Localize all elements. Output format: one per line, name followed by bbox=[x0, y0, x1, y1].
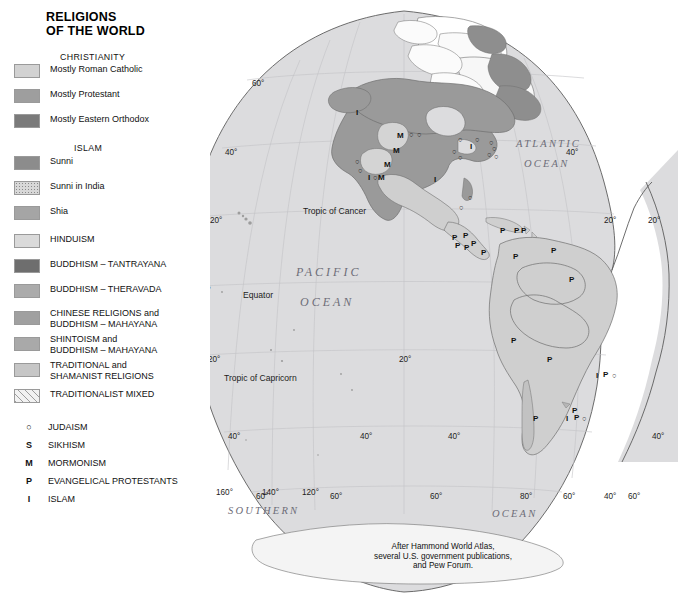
legend-label-catholic: Mostly Roman Catholic bbox=[50, 64, 143, 75]
legend-swatch-theravada bbox=[14, 284, 40, 298]
sikhism-icon: S bbox=[22, 440, 36, 450]
legend-panel: RELIGIONS OF THE WORLD CHRISTIANITY Most… bbox=[0, 0, 210, 594]
legend-swatch-shia bbox=[14, 206, 40, 220]
ocean-lobe-far-east bbox=[618, 150, 678, 462]
legend-label-chinese: CHINESE RELIGIONS and BUDDHISM – MAHAYAN… bbox=[50, 308, 159, 329]
legend-label-theravada: BUDDHISM – THERAVADA bbox=[50, 284, 162, 295]
legend-swatch-traditional bbox=[14, 363, 40, 377]
legend-label-tantrayana: BUDDHISM – TANTRAYANA bbox=[50, 259, 166, 270]
legend-swatch-sunni-india bbox=[14, 181, 40, 195]
legend-label-orthodox: Mostly Eastern Orthodox bbox=[50, 114, 149, 125]
legend-label-protestant: Mostly Protestant bbox=[50, 89, 120, 100]
evangelical-protestants-icon: P bbox=[22, 476, 36, 486]
legend-swatch-sunni bbox=[14, 156, 40, 170]
legend-swatch-tantrayana bbox=[14, 259, 40, 273]
legend-swatch-shinto bbox=[14, 337, 40, 351]
source-credit: After Hammond World Atlas, several U.S. … bbox=[348, 542, 538, 571]
legend-label-traditional: TRADITIONAL and SHAMANIST RELIGIONS bbox=[50, 360, 154, 381]
page-title: RELIGIONS OF THE WORLD bbox=[46, 10, 206, 38]
legend-label-hinduism: HINDUISM bbox=[50, 234, 95, 245]
legend-label-evangelical: EVANGELICAL PROTESTANTS bbox=[48, 476, 178, 486]
legend-heading-islam: ISLAM bbox=[74, 143, 102, 153]
legend-swatch-tradmixed bbox=[14, 389, 40, 403]
legend-heading-christianity: CHRISTIANITY bbox=[60, 52, 125, 62]
map-page: PACIFICOCEANATLANTICOCEANSOUTHERNOCEANTr… bbox=[0, 0, 678, 594]
legend-label-shinto: SHINTOISM and BUDDHISM – MAHAYANA bbox=[50, 334, 157, 355]
mormonism-icon: M bbox=[22, 458, 36, 468]
legend-label-sunni: Sunni bbox=[50, 156, 73, 167]
legend-swatch-protestant bbox=[14, 89, 40, 103]
legend-label-sunni-india: Sunni in India bbox=[50, 181, 105, 192]
legend-label-judaism: JUDAISM bbox=[48, 422, 88, 432]
legend-label-mormonism: MORMONISM bbox=[48, 458, 106, 468]
islam-icon: I bbox=[22, 494, 36, 504]
legend-swatch-orthodox bbox=[14, 114, 40, 128]
legend-label-sikhism: SIKHISM bbox=[48, 440, 85, 450]
judaism-icon: ○ bbox=[22, 422, 36, 432]
legend-swatch-hinduism bbox=[14, 234, 40, 248]
legend-swatch-chinese bbox=[14, 311, 40, 325]
legend-label-shia: Shia bbox=[50, 206, 68, 217]
legend-swatch-catholic bbox=[14, 64, 40, 78]
legend-label-islam-symbol: ISLAM bbox=[48, 494, 75, 504]
legend-label-tradmixed: TRADITIONALIST MIXED bbox=[50, 389, 154, 400]
